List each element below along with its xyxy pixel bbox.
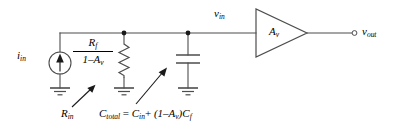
- circuit-schematic-svg: [0, 0, 399, 135]
- junction-dot-capacitor: [186, 31, 191, 36]
- ground-source-icon: [50, 88, 70, 95]
- junction-dot-resistor: [122, 31, 127, 36]
- output-node-label: vout: [362, 26, 376, 37]
- resistor-symbol: [119, 44, 129, 78]
- circuit-diagram: iin Rf 1–Av vin Av vout Rin Ctotal = Cin…: [0, 0, 399, 135]
- fraction-bar: [73, 51, 113, 52]
- current-source-arrow-icon: [56, 54, 64, 72]
- resistor-value-label: Rf 1–Av: [70, 36, 116, 67]
- ground-resistor-icon: [114, 88, 134, 95]
- resistor-denominator: 1–Av: [70, 53, 116, 67]
- current-source-label: iin: [17, 50, 26, 61]
- callout-arrow-ctotal-icon: [136, 68, 167, 105]
- resistor-callout-label: Rin: [61, 108, 74, 119]
- ground-capacitor-icon: [178, 88, 198, 95]
- capacitor-equation-label: Ctotal = Cin+ (1–Av)Cf: [99, 108, 192, 119]
- callout-arrow-rin-icon: [72, 85, 96, 107]
- output-terminal-icon: [352, 31, 357, 36]
- resistor-numerator: Rf: [70, 36, 116, 50]
- amplifier-triangle: [256, 9, 307, 57]
- amplifier-gain-label: Av: [269, 26, 279, 37]
- input-node-label: vin: [214, 8, 225, 19]
- capacitor-symbol: [176, 55, 200, 63]
